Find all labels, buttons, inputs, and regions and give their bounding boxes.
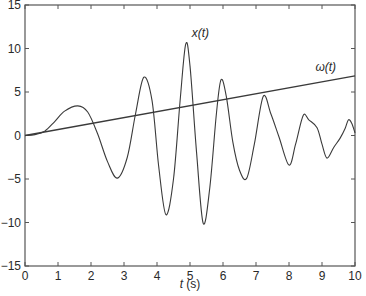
y-tick-label: −5 bbox=[7, 172, 21, 186]
x-tick-label: 1 bbox=[55, 269, 62, 283]
plot-frame bbox=[25, 5, 355, 266]
annotation-omega-of-t: ω(t) bbox=[315, 60, 336, 74]
series-omega-of-t bbox=[25, 76, 355, 136]
x-axis-label-unit: (s) bbox=[183, 277, 200, 291]
x-tick-label: 0 bbox=[22, 269, 29, 283]
annotation-x-of-t: x(t) bbox=[191, 26, 209, 40]
series-layer bbox=[25, 42, 355, 224]
series-x-of-t bbox=[25, 42, 355, 224]
y-tick-label: −10 bbox=[1, 216, 22, 230]
x-tick-label: 8 bbox=[286, 269, 293, 283]
y-tick-label: 5 bbox=[14, 85, 21, 99]
x-tick-label: 2 bbox=[88, 269, 95, 283]
x-tick-label: 9 bbox=[319, 269, 326, 283]
x-tick-label: 7 bbox=[253, 269, 260, 283]
y-tick-label: 0 bbox=[14, 129, 21, 143]
x-tick-label: 6 bbox=[220, 269, 227, 283]
x-tick-label: 3 bbox=[121, 269, 128, 283]
x-tick-label: 4 bbox=[154, 269, 161, 283]
y-tick-label: 10 bbox=[8, 42, 22, 56]
annotations: x(t)ω(t) bbox=[191, 26, 336, 74]
x-tick-label: 10 bbox=[348, 269, 362, 283]
x-axis-label: t (s) bbox=[180, 277, 201, 291]
x-axis-ticks: 012345678910 bbox=[22, 5, 362, 283]
plot-border bbox=[25, 5, 355, 266]
chart: 012345678910 −15−10−5051015 t (s) x(t)ω(… bbox=[0, 0, 366, 296]
y-tick-label: 15 bbox=[8, 0, 22, 12]
y-tick-label: −15 bbox=[1, 259, 22, 273]
